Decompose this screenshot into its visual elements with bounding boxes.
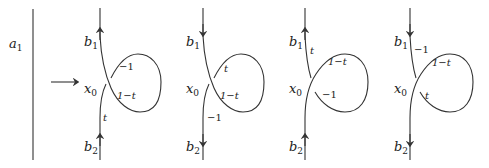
panel-4-weight-loop-lower: t [425, 91, 429, 101]
panel-3-label-x0: x0 [289, 82, 302, 98]
panel-3-knot [305, 8, 368, 160]
panel-2-label-x0: x0 [186, 82, 199, 98]
panel-2-label-b1: b1 [186, 35, 200, 51]
panel-4-label-b2: b2 [394, 140, 408, 156]
panel-1-label-b2: b2 [84, 140, 98, 156]
panel-1-weight-lower-strand: t [103, 113, 107, 123]
panel-2-knot [203, 8, 264, 160]
panel-1-weight-loop-lower: 1−t [117, 91, 136, 101]
panel-3-label-b2: b2 [289, 140, 303, 156]
panel-1-label-x0: x0 [84, 82, 97, 98]
panel-2-label-b2: b2 [186, 140, 200, 156]
diagram-canvas [0, 0, 489, 168]
panel-1-weight-loop-upper: −1 [119, 62, 134, 72]
panel-2-weight-lower-strand: −1 [207, 113, 222, 123]
panel-3-weight-loop-lower: −1 [322, 90, 337, 100]
panel-4-label-x0: x0 [394, 82, 407, 98]
panel-1-knot [100, 8, 161, 160]
panel-4-knot [410, 8, 473, 160]
panel-3-weight-loop-upper: 1−t [328, 57, 347, 67]
panel-3-label-b1: b1 [289, 35, 303, 51]
panel-4-weight-upper-strand: −1 [414, 45, 429, 55]
panel-4-weight-loop-upper: 1−t [432, 58, 451, 68]
panel-1-label-b1: b1 [84, 35, 98, 51]
panel-4-label-b1: b1 [394, 35, 408, 51]
label-a1: a1 [9, 37, 23, 53]
panel-2-weight-loop-lower: 1−t [220, 91, 239, 101]
panel-3-weight-upper-strand: t [310, 46, 314, 56]
panel-2-weight-loop-upper: t [224, 64, 228, 74]
